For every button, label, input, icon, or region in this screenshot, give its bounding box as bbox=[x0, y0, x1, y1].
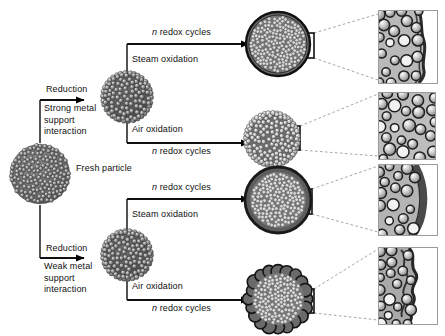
label-weak-interaction-text: Weak metal support interaction bbox=[44, 261, 92, 294]
cycles-rest-row-1: redox cycles bbox=[157, 27, 211, 37]
inset-panel-row-3 bbox=[378, 164, 438, 236]
inset-panel-row-4 bbox=[378, 247, 438, 325]
label-weak-interaction: Weak metal support interaction bbox=[44, 261, 106, 296]
label-treatment-row-3: Steam oxidation bbox=[132, 209, 198, 220]
cycles-rest-row-3: redox cycles bbox=[157, 182, 211, 192]
label-cycles-row-4: n redox cycles bbox=[152, 303, 211, 314]
cycles-rest-row-2: redox cycles bbox=[157, 146, 211, 156]
cycles-rest-row-4: redox cycles bbox=[157, 303, 211, 313]
label-strong-interaction: Strong metal support interaction bbox=[44, 103, 106, 138]
inset-panel-row-2 bbox=[378, 92, 436, 160]
figure-canvas: Reduction Strong metal support interacti… bbox=[0, 0, 445, 336]
label-treatment-row-2: Air oxidation bbox=[132, 124, 183, 135]
label-treatment-row-1: Steam oxidation bbox=[132, 54, 198, 65]
label-cycles-row-1: n redox cycles bbox=[152, 27, 211, 38]
label-treatment-row-4: Air oxidation bbox=[132, 281, 183, 292]
label-cycles-row-2: n redox cycles bbox=[152, 146, 211, 157]
label-reduction-strong: Reduction bbox=[46, 84, 87, 95]
label-reduction-weak: Reduction bbox=[46, 243, 87, 254]
inset-panel-row-1 bbox=[378, 10, 438, 84]
label-cycles-row-3: n redox cycles bbox=[152, 182, 211, 193]
label-strong-interaction-text: Strong metal support interaction bbox=[44, 103, 96, 136]
label-fresh-particle: Fresh particle bbox=[76, 163, 132, 174]
